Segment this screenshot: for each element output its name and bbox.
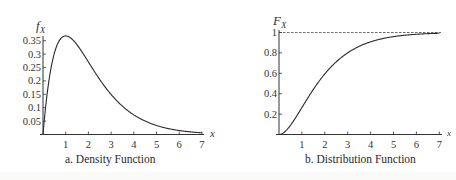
x-tick-label: 3 [108, 139, 113, 150]
y-tick-label: 0.2 [28, 75, 41, 86]
y-tick-label: 0.4 [264, 88, 278, 99]
x-tick-label: 1 [299, 139, 304, 150]
x-tick-label: 7 [199, 139, 204, 150]
y-tick-label: 0.3 [28, 49, 41, 60]
x-tick-label: 5 [391, 139, 396, 150]
x-tick-label: 4 [368, 139, 374, 150]
right-x-axis-label: x [446, 128, 451, 138]
x-tick-label: 4 [131, 139, 137, 150]
left-y-axis-label: fX [36, 18, 46, 35]
x-tick-label: 5 [154, 139, 159, 150]
y-tick-label: 0.1 [28, 102, 41, 113]
y-tick-label: 0.2 [264, 109, 277, 120]
x-tick-label: 1 [63, 139, 68, 150]
x-tick-label: 3 [345, 139, 350, 150]
y-tick-label: 0.15 [23, 89, 41, 100]
right-y-axis-label: FX [272, 13, 287, 30]
left-x-axis-label: x [209, 127, 215, 139]
x-tick-label: 2 [322, 139, 327, 150]
x-tick-label: 6 [414, 139, 419, 150]
distribution-caption: b. Distribution Function [305, 153, 416, 165]
distribution-curve [279, 33, 439, 134]
y-tick-label: 0.25 [23, 62, 41, 73]
x-tick-label: 2 [86, 139, 91, 150]
bottom-band [0, 172, 456, 180]
y-tick-label: 0.8 [264, 47, 277, 58]
distribution-chart: 0.20.40.60.81 1234567 FX x [264, 13, 451, 150]
left-y-ticks: 0.050.10.150.20.250.30.35 [23, 35, 46, 126]
y-tick-label: 1 [272, 27, 277, 38]
density-curve [43, 36, 202, 135]
density-caption: a. Density Function [65, 153, 155, 165]
x-tick-label: 6 [177, 139, 182, 150]
y-tick-label: 0.6 [264, 68, 277, 79]
density-chart: 0.050.10.150.20.250.30.35 1234567 fX x [23, 18, 215, 150]
y-tick-label: 0.35 [23, 35, 41, 46]
y-tick-label: 0.05 [23, 116, 41, 127]
x-tick-label: 7 [437, 139, 442, 150]
